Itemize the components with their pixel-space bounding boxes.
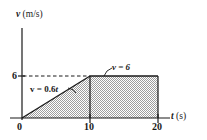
y-tick-label-6: 6 [12, 71, 17, 81]
velocity-time-graph-figure: v (m/s) t (s) 6 0 10 20 v = 0.6t v = 6 [0, 0, 207, 140]
y-axis-title-symbol: v [16, 9, 20, 19]
leader-line-flat-label [104, 68, 112, 76]
x-axis-title-symbol: t [171, 111, 174, 121]
y-axis-unit: (m/s) [23, 9, 43, 19]
x-tick-label-20: 20 [152, 122, 162, 132]
y-axis-title: v (m/s) [16, 10, 43, 20]
x-axis-unit: (s) [176, 111, 186, 121]
origin-label: 0 [17, 122, 22, 132]
x-tick-label-10: 10 [84, 122, 94, 132]
annotation-ramp-equation-var: t [55, 84, 58, 94]
annotation-constant-equation: v = 6 [112, 63, 130, 72]
annotation-ramp-equation-head: v = 0.6 [30, 84, 55, 94]
x-axis-title: t (s) [171, 112, 186, 122]
annotation-ramp-equation: v = 0.6t [30, 85, 58, 94]
